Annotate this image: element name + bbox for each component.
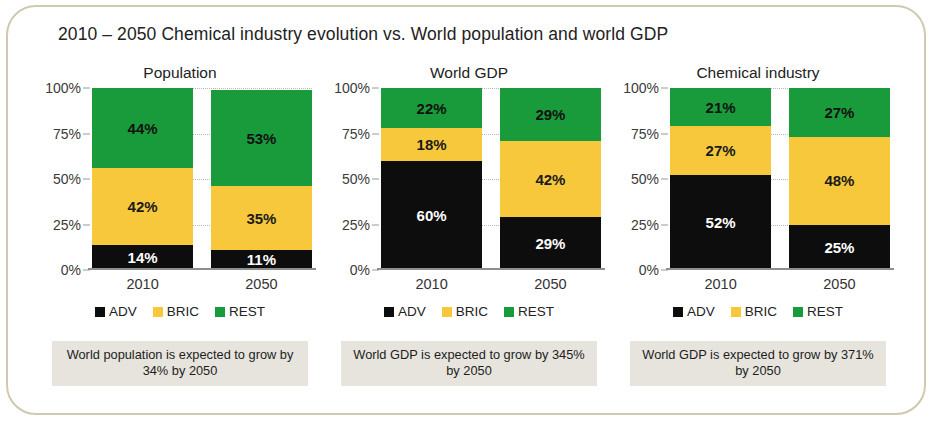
y-tick-mark <box>661 133 668 134</box>
bar-segment-adv[interactable]: 25% <box>789 225 890 271</box>
legend-swatch-icon <box>504 307 514 317</box>
legend-label: ADV <box>398 304 426 319</box>
y-tick-mark <box>83 224 90 225</box>
x-axis-line <box>88 268 316 270</box>
legend-label: BRIC <box>745 304 777 319</box>
legend-item-adv[interactable]: ADV <box>384 304 426 319</box>
plot-region: 100% 75% 50% 25% 0% <box>333 88 605 270</box>
y-axis: 100% 75% 50% 25% 0% <box>44 88 90 270</box>
bar-segment-adv[interactable]: 52% <box>670 175 771 270</box>
stacked-bar-2010[interactable]: 22% 18% 60% <box>381 88 482 270</box>
legend-swatch-icon <box>793 307 803 317</box>
legend-swatch-icon <box>153 307 163 317</box>
x-tick-label: 2010 <box>92 276 193 292</box>
legend-label: BRIC <box>167 304 199 319</box>
x-axis: 2010 2050 <box>381 276 605 292</box>
bar-segment-rest[interactable]: 44% <box>92 88 193 168</box>
bar-group: 44% 42% 14% 53% 35% 11% <box>92 88 312 270</box>
x-axis: 2010 2050 <box>670 276 894 292</box>
legend-label: REST <box>807 304 843 319</box>
bar-segment-bric[interactable]: 27% <box>670 126 771 175</box>
panel-caption: World GDP is expected to grow by 371% by… <box>630 341 886 386</box>
y-tick-mark <box>83 88 90 89</box>
x-tick-label: 2010 <box>670 276 771 292</box>
y-tick-mark <box>372 179 379 180</box>
legend-item-rest[interactable]: REST <box>504 304 554 319</box>
y-tick-mark <box>661 88 668 89</box>
bar-segment-bric[interactable]: 48% <box>789 137 890 224</box>
legend-item-bric[interactable]: BRIC <box>731 304 777 319</box>
legend-label: ADV <box>109 304 137 319</box>
plot-region: 100% 75% 50% 25% 0% <box>622 88 894 270</box>
y-tick-label: 0% <box>639 262 659 278</box>
y-tick-mark <box>372 88 379 89</box>
stacked-bar-2010[interactable]: 21% 27% 52% <box>670 88 771 270</box>
stacked-bar-2050[interactable]: 29% 42% 29% <box>500 88 601 270</box>
panel-title: Chemical industry <box>622 62 894 84</box>
y-axis: 100% 75% 50% 25% 0% <box>622 88 668 270</box>
y-tick-label: 0% <box>61 262 81 278</box>
bar-segment-adv[interactable]: 60% <box>381 161 482 270</box>
stacked-bar-2010[interactable]: 44% 42% 14% <box>92 88 193 270</box>
legend-swatch-icon <box>442 307 452 317</box>
bar-segment-rest[interactable]: 22% <box>381 88 482 128</box>
plot-area: 22% 18% 60% 29% 42% 29% <box>381 88 601 270</box>
bar-segment-bric[interactable]: 35% <box>211 186 312 250</box>
plot-region: 100% 75% 50% 25% 0% <box>44 88 316 270</box>
bar-segment-rest[interactable]: 21% <box>670 88 771 126</box>
bar-segment-adv[interactable]: 14% <box>92 245 193 270</box>
y-tick-label: 100% <box>334 80 370 96</box>
bar-segment-adv[interactable]: 11% <box>211 250 312 270</box>
x-axis-line <box>666 268 894 270</box>
bar-segment-rest[interactable]: 29% <box>500 88 601 141</box>
chart-legend: ADV BRIC REST <box>44 304 316 319</box>
y-tick-mark <box>83 179 90 180</box>
x-tick-label: 2010 <box>381 276 482 292</box>
y-tick-label: 100% <box>45 80 81 96</box>
x-tick-label: 2050 <box>211 276 312 292</box>
bar-group: 22% 18% 60% 29% 42% 29% <box>381 88 601 270</box>
bar-segment-bric[interactable]: 42% <box>92 168 193 244</box>
panel-title: World GDP <box>333 62 605 84</box>
legend-label: REST <box>518 304 554 319</box>
stacked-bar-2050[interactable]: 27% 48% 25% <box>789 88 890 270</box>
legend-swatch-icon <box>731 307 741 317</box>
bar-segment-rest[interactable]: 27% <box>789 88 890 137</box>
legend-label: BRIC <box>456 304 488 319</box>
legend-swatch-icon <box>215 307 225 317</box>
y-axis: 100% 75% 50% 25% 0% <box>333 88 379 270</box>
legend-item-bric[interactable]: BRIC <box>442 304 488 319</box>
y-tick-label: 50% <box>53 171 81 187</box>
bar-group: 21% 27% 52% 27% 48% 25% <box>670 88 890 270</box>
plot-area: 44% 42% 14% 53% 35% 11% <box>92 88 312 270</box>
bar-segment-rest[interactable]: 53% <box>211 90 312 186</box>
y-tick-label: 25% <box>631 217 659 233</box>
legend-item-adv[interactable]: ADV <box>95 304 137 319</box>
bar-segment-bric[interactable]: 42% <box>500 141 601 217</box>
chart-legend: ADV BRIC REST <box>622 304 894 319</box>
plot-area: 21% 27% 52% 27% 48% 25% <box>670 88 890 270</box>
y-tick-label: 0% <box>350 262 370 278</box>
chart-panel-world-gdp: World GDP 100% 75% 50% 25% 0% <box>333 62 605 392</box>
x-axis: 2010 2050 <box>92 276 316 292</box>
legend-item-adv[interactable]: ADV <box>673 304 715 319</box>
bar-segment-bric[interactable]: 18% <box>381 128 482 161</box>
legend-item-rest[interactable]: REST <box>215 304 265 319</box>
legend-item-bric[interactable]: BRIC <box>153 304 199 319</box>
chart-legend: ADV BRIC REST <box>333 304 605 319</box>
panel-caption: World population is expected to grow by … <box>52 341 308 386</box>
stacked-bar-2050[interactable]: 53% 35% 11% <box>211 88 312 270</box>
legend-label: REST <box>229 304 265 319</box>
legend-swatch-icon <box>95 307 105 317</box>
bar-segment-adv[interactable]: 29% <box>500 217 601 270</box>
y-tick-label: 50% <box>631 171 659 187</box>
slide-root: 2010 – 2050 Chemical industry evolution … <box>0 0 933 421</box>
x-axis-line <box>377 268 605 270</box>
x-tick-label: 2050 <box>500 276 601 292</box>
y-tick-mark <box>83 133 90 134</box>
y-tick-label: 25% <box>53 217 81 233</box>
legend-item-rest[interactable]: REST <box>793 304 843 319</box>
y-tick-label: 75% <box>631 126 659 142</box>
chart-panel-chemical-industry: Chemical industry 100% 75% 50% 25% 0% <box>622 62 894 392</box>
chart-panels-container: Population 100% 75% 50% 25% 0% <box>44 62 894 392</box>
